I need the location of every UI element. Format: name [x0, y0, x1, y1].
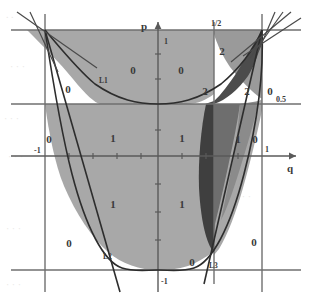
region-label: 0	[251, 236, 257, 248]
region-label: 0	[66, 237, 72, 249]
tick-label-p-half: 0.5	[276, 95, 286, 104]
curve-label-L1: L1	[99, 76, 108, 85]
svg-text:· · ·: · · ·	[6, 279, 21, 290]
region-label: 1	[235, 133, 241, 145]
region-label: 2	[202, 85, 208, 97]
tick-label-p-1: 1	[164, 37, 168, 46]
region-label: 0	[130, 64, 136, 76]
region-label: 0	[252, 133, 258, 145]
svg-text:· · ·: · · ·	[10, 61, 25, 72]
region-label: 1	[179, 198, 185, 210]
region-label: 1	[110, 198, 116, 210]
region-label: 2	[244, 85, 250, 97]
x-axis-label: q	[287, 162, 294, 174]
y-axis-label: p	[141, 20, 147, 32]
curve-label-L3: L3	[209, 261, 218, 270]
svg-text:· · ·: · · ·	[4, 113, 19, 124]
region-label: 0	[189, 256, 195, 268]
svg-text:. .: . .	[6, 9, 14, 20]
curve-label-L2: L2	[103, 252, 112, 261]
region-label: 1	[110, 132, 116, 144]
x-axis-arrow	[289, 153, 296, 160]
svg-text:· · ·: · · ·	[6, 223, 21, 234]
tick-label-q-1: 1	[265, 145, 269, 154]
region-label: 1	[179, 132, 185, 144]
region-label: 0	[178, 64, 184, 76]
y-axis-arrow	[155, 22, 162, 29]
tick-label-q-half: 1/2	[211, 19, 221, 28]
shaded-regions	[27, 30, 262, 270]
region-label: 0	[267, 85, 273, 97]
tick-label-q-minus-1: -1	[34, 146, 41, 155]
tick-label-p-minus-1: -1	[161, 277, 168, 286]
region-label: 0	[65, 83, 71, 95]
root-figure: . . · · · · · · · · · · · · · · · · · · …	[0, 0, 316, 303]
region-label: 0	[46, 133, 52, 145]
region-label: 2	[219, 45, 225, 57]
